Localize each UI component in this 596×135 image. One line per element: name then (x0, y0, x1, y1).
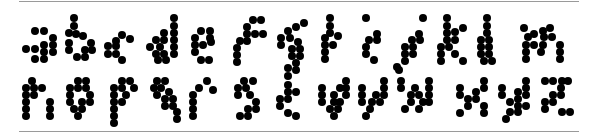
dot (524, 33, 532, 41)
dot (456, 109, 464, 117)
dot (321, 55, 329, 63)
dot (483, 14, 491, 22)
dot (203, 77, 211, 85)
dot (110, 119, 118, 127)
dot (243, 37, 251, 45)
dot (170, 50, 178, 58)
dot (65, 46, 73, 54)
dot (522, 102, 530, 110)
dot (79, 32, 87, 40)
dot (506, 98, 514, 106)
dot (520, 24, 528, 32)
dot (522, 55, 530, 63)
dot (104, 50, 112, 58)
dot (541, 77, 549, 85)
dot (81, 53, 89, 61)
dot (362, 112, 370, 120)
dot (191, 48, 199, 56)
dot (451, 50, 459, 58)
dot (234, 91, 242, 99)
dot (498, 91, 506, 99)
dot (126, 35, 134, 43)
specimen-row-2-text: nopqrstuvwxyz (0, 0, 1, 1)
dot (205, 56, 213, 64)
dot (286, 34, 294, 42)
dot (31, 55, 39, 63)
dot (456, 91, 464, 99)
dot (326, 14, 334, 22)
dot (197, 27, 205, 35)
glyph-s (232, 64, 272, 124)
dot (451, 28, 459, 36)
dot (40, 55, 48, 63)
dot (522, 91, 530, 99)
dot (415, 105, 423, 113)
glyph-v (358, 64, 398, 124)
dot (459, 24, 467, 32)
dot (244, 112, 252, 120)
dot (409, 50, 417, 58)
dot (70, 14, 78, 22)
bottom-rule (19, 131, 579, 132)
dot (334, 32, 342, 40)
dot (74, 84, 82, 92)
dot (284, 95, 292, 103)
dot (557, 91, 565, 99)
dot (564, 77, 572, 85)
dot (153, 91, 161, 99)
dot (252, 105, 260, 113)
glyph-p (104, 64, 144, 124)
dot (22, 45, 30, 53)
dot (195, 84, 203, 92)
dot (88, 46, 96, 54)
dot (249, 77, 257, 85)
dot (451, 36, 459, 44)
dot (370, 56, 378, 64)
dot (330, 112, 338, 120)
glyph-x (456, 64, 496, 124)
dot (249, 16, 257, 24)
dot (189, 112, 197, 120)
dot (556, 55, 564, 63)
dot (46, 112, 54, 120)
dot (514, 108, 522, 116)
dot (425, 98, 433, 106)
dot (49, 48, 57, 56)
dot (104, 42, 112, 50)
dot (130, 84, 138, 92)
dot (276, 102, 284, 110)
dot (502, 115, 510, 123)
dot (376, 98, 384, 106)
dot (397, 84, 405, 92)
dot (443, 14, 451, 22)
dot (549, 98, 557, 106)
dot (38, 84, 46, 92)
glyph-w (397, 64, 437, 124)
dot (342, 91, 350, 99)
dot (395, 66, 403, 74)
dot (318, 98, 326, 106)
glyph-n (20, 64, 60, 124)
type-specimen: abcdefghijklm nopqrstuvwxyz (0, 0, 596, 135)
dot (251, 30, 259, 38)
dot (284, 109, 292, 117)
dot (546, 24, 554, 32)
dot (30, 91, 38, 99)
dot (480, 109, 488, 117)
dot (118, 56, 126, 64)
dot (292, 112, 300, 120)
dot (416, 36, 424, 44)
dot (257, 16, 265, 24)
dot (197, 56, 205, 64)
dot (480, 84, 488, 92)
dot (173, 115, 181, 123)
glyph-o (60, 64, 100, 124)
dot (22, 112, 30, 120)
dot (464, 102, 472, 110)
dot (401, 105, 409, 113)
dot (236, 112, 244, 120)
dot (170, 14, 178, 22)
dot (284, 64, 292, 72)
dot (73, 53, 81, 61)
glyph-q (147, 64, 187, 124)
